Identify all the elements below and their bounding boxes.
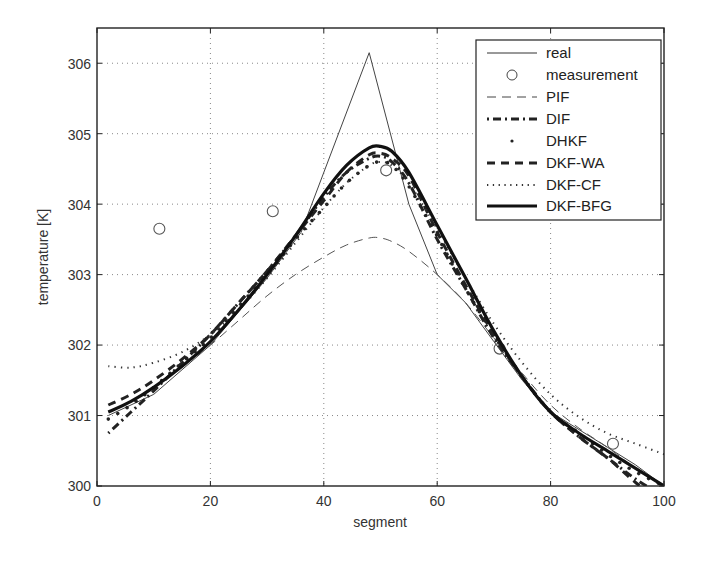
dhkf-point: [413, 195, 417, 199]
x-tick-label: 20: [203, 493, 219, 509]
dhkf-point: [472, 300, 476, 304]
legend-label-dkf-cf: DKF-CF: [546, 176, 601, 193]
y-tick-label: 305: [68, 127, 92, 143]
y-tick-label: 302: [68, 337, 92, 353]
legend-label-dif: DIF: [546, 110, 570, 127]
dhkf-point: [618, 461, 622, 465]
legend-label-measurement: measurement: [546, 66, 639, 83]
legend: real measurement PIF DIF DHKF DKF-WA DKF…: [476, 40, 661, 220]
y-tick-label: 304: [68, 197, 92, 213]
dhkf-point: [340, 186, 344, 190]
x-axis-label: segment: [353, 514, 407, 530]
legend-label-dhkf: DHKF: [546, 132, 587, 149]
dhkf-point: [424, 214, 428, 218]
dhkf-point: [310, 219, 314, 223]
dhkf-point: [375, 160, 379, 164]
y-tick-label: 306: [68, 56, 92, 72]
legend-label-dkf-bfg: DKF-BFG: [546, 197, 612, 214]
dhkf-point: [125, 406, 129, 410]
dhkf-point: [386, 161, 390, 165]
y-tick-label: 301: [68, 408, 92, 424]
x-tick-label: 40: [316, 493, 332, 509]
y-tick-label: 300: [68, 478, 92, 494]
chart: 0 20 40 60 80 100 300 301 302 303 304 30…: [0, 0, 711, 565]
x-tick-label: 0: [93, 493, 101, 509]
dhkf-point: [445, 252, 449, 256]
x-tick-label: 100: [652, 493, 676, 509]
legend-label-real: real: [546, 44, 571, 61]
dhkf-point: [116, 412, 120, 416]
y-axis-label: temperature [K]: [35, 209, 51, 306]
y-tick-label: 303: [68, 267, 92, 283]
legend-label-dkf-wa: DKF-WA: [546, 154, 605, 171]
dhkf-point: [107, 417, 111, 421]
dhkf-point: [407, 185, 411, 189]
x-tick-label: 80: [543, 493, 559, 509]
legend-swatch-dhkf: [510, 139, 513, 142]
legend-label-pif: PIF: [546, 88, 569, 105]
x-tick-label: 60: [429, 493, 445, 509]
